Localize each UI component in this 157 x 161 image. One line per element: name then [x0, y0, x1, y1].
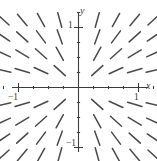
- slope-segment: [56, 47, 63, 60]
- slope-segment: [94, 47, 101, 60]
- slope-segment: [95, 30, 100, 44]
- slope-segment: [58, 148, 62, 161]
- slope-segment: [112, 148, 119, 161]
- slope-segment: [128, 50, 141, 58]
- slope-segment: [57, 131, 62, 145]
- x-axis-label: x: [146, 81, 150, 91]
- y-axis-label: y: [80, 6, 84, 16]
- slope-segment: [35, 49, 46, 59]
- slope-segment: [34, 101, 48, 107]
- slope-segment: [147, 134, 157, 142]
- slope-segment: [146, 69, 157, 72]
- slope-segment: [110, 49, 121, 59]
- slope-field-figure: y x 1 −1 1 −1: [0, 0, 157, 161]
- slope-segment: [17, 32, 28, 42]
- slope-segment: [148, 150, 157, 160]
- slope-segment: [112, 13, 119, 26]
- slope-segment: [128, 68, 142, 72]
- slope-segment: [92, 99, 103, 109]
- slope-segment: [128, 102, 142, 106]
- slope-segment: [129, 32, 140, 42]
- slope-segment: [17, 149, 27, 161]
- y-tick-label-negative-one: −1: [66, 139, 76, 149]
- slope-segment: [146, 103, 157, 106]
- slope-segment: [0, 134, 10, 142]
- slope-segment: [95, 131, 100, 145]
- slope-segment: [0, 103, 11, 106]
- slope-segment: [112, 132, 121, 144]
- slope-segment: [147, 51, 157, 57]
- x-tick-label-positive-one: 1: [134, 93, 139, 103]
- slope-segment: [147, 118, 157, 124]
- slope-segment: [0, 150, 9, 160]
- slope-segment: [57, 30, 62, 44]
- slope-segment: [95, 13, 99, 27]
- slope-segment: [15, 68, 29, 72]
- axes-group: [4, 12, 154, 161]
- x-tick-label-negative-one: −1: [8, 93, 18, 103]
- slope-segment: [16, 50, 29, 58]
- slope-segment: [17, 133, 28, 143]
- slope-segment: [54, 99, 65, 109]
- slope-segment: [129, 133, 140, 143]
- slope-segment: [147, 33, 157, 41]
- slope-segment: [15, 102, 29, 106]
- slope-segment: [0, 69, 11, 72]
- slope-segment: [37, 132, 46, 144]
- slope-segment: [56, 115, 63, 128]
- slope-segment: [58, 13, 62, 27]
- slope-segment: [37, 13, 44, 26]
- slope-segment: [37, 148, 44, 161]
- slope-segment: [94, 115, 101, 128]
- slope-segment: [0, 33, 10, 41]
- slope-segment: [0, 15, 9, 25]
- slope-segment: [17, 14, 27, 26]
- slope-segment: [35, 116, 46, 126]
- slope-segment: [130, 149, 140, 161]
- slope-segment: [34, 68, 48, 74]
- slope-segment: [130, 14, 140, 26]
- slope-segment: [128, 117, 141, 125]
- slope-segment: [92, 66, 103, 76]
- slope-segment: [0, 51, 10, 57]
- slope-segment: [0, 118, 10, 124]
- slope-segment: [148, 15, 157, 25]
- slope-segment: [110, 116, 121, 126]
- y-tick-label-positive-one: 1: [68, 21, 73, 31]
- slope-segment: [16, 117, 29, 125]
- slope-segment: [109, 68, 123, 74]
- slope-segment: [109, 101, 123, 107]
- slope-segment: [54, 66, 65, 76]
- slope-field-canvas: [0, 0, 157, 161]
- slope-segment: [37, 31, 46, 43]
- slope-segment: [112, 31, 121, 43]
- slope-segment: [95, 148, 99, 161]
